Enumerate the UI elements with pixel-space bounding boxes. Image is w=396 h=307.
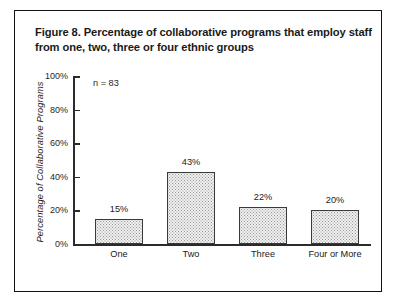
y-tick-label: 0% <box>55 240 68 249</box>
bar-value-label: 20% <box>311 196 359 205</box>
bar-one[interactable] <box>95 219 143 244</box>
category-label-two: Two <box>151 250 231 259</box>
category-label-one: One <box>79 250 159 259</box>
bar-group-two[interactable]: 43% Two <box>167 76 215 244</box>
y-tick-mark <box>73 177 80 179</box>
figure-title: Figure 8. Percentage of collaborative pr… <box>35 25 365 55</box>
y-tick-mark <box>73 210 80 212</box>
y-axis-title-text: Percentage of Collaborative Programs <box>35 81 45 242</box>
y-axis-title: Percentage of Collaborative Programs <box>33 77 47 247</box>
bar-two[interactable] <box>167 172 215 244</box>
y-tick-label: 20% <box>50 206 68 215</box>
category-label-four-or-more: Four or More <box>295 250 375 259</box>
bar-value-label: 22% <box>239 193 287 202</box>
y-tick-label: 80% <box>50 105 68 114</box>
bar-four-or-more[interactable] <box>311 210 359 244</box>
category-label-three: Three <box>223 250 303 259</box>
y-tick-mark <box>73 76 80 78</box>
y-tick-mark <box>73 143 80 145</box>
bar-three[interactable] <box>239 207 287 244</box>
figure-frame: Figure 8. Percentage of collaborative pr… <box>14 10 382 292</box>
bar-value-label: 43% <box>167 158 215 167</box>
y-axis-line <box>73 76 75 244</box>
x-axis-line <box>73 244 371 246</box>
plot-area: 100% 80% 60% 40% 20% 0% 15% One 43% <box>73 76 371 244</box>
figure-title-line-2: from one, two, three or four ethnic grou… <box>35 40 365 55</box>
y-tick-label: 60% <box>50 139 68 148</box>
bar-value-label: 15% <box>95 205 143 214</box>
bar-group-three[interactable]: 22% Three <box>239 76 287 244</box>
bar-group-one[interactable]: 15% One <box>95 76 143 244</box>
y-tick-label: 100% <box>45 72 68 81</box>
figure-title-line-1: Figure 8. Percentage of collaborative pr… <box>35 25 365 40</box>
bar-group-four-or-more[interactable]: 20% Four or More <box>311 76 359 244</box>
y-tick-mark <box>73 110 80 112</box>
y-tick-label: 40% <box>50 172 68 181</box>
